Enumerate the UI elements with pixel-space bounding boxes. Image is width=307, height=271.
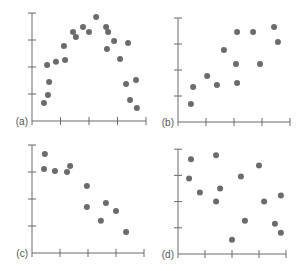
data-point <box>64 169 70 175</box>
panel-label: (b) <box>162 117 174 128</box>
data-point <box>42 151 48 157</box>
panel-label: (a) <box>16 116 28 127</box>
data-point <box>197 189 203 195</box>
data-point <box>123 229 129 235</box>
data-point <box>104 46 110 52</box>
data-point <box>188 101 194 107</box>
scatter-panel-b: (b) <box>162 18 290 128</box>
data-point <box>98 218 104 224</box>
data-point <box>105 29 111 35</box>
data-point <box>229 237 235 243</box>
data-point <box>278 230 284 236</box>
data-point <box>188 156 194 162</box>
data-point <box>272 221 278 227</box>
data-point <box>250 29 256 35</box>
data-point <box>84 204 90 210</box>
data-point <box>242 218 248 224</box>
data-point <box>93 14 99 20</box>
data-point <box>190 84 196 90</box>
data-point <box>117 56 123 62</box>
data-point <box>103 200 109 206</box>
panel-label: (c) <box>16 248 28 259</box>
data-point <box>134 105 140 111</box>
data-point <box>67 163 73 169</box>
data-point <box>204 73 210 79</box>
scatter-panel-c: (c) <box>16 145 144 259</box>
data-point <box>271 24 277 30</box>
data-point <box>127 97 133 103</box>
data-point <box>125 40 131 46</box>
data-point <box>257 61 263 67</box>
data-point <box>275 39 281 45</box>
data-point <box>73 34 79 40</box>
data-point <box>217 186 223 192</box>
data-point <box>234 80 240 86</box>
data-point <box>52 168 58 174</box>
data-point <box>278 193 284 199</box>
data-point <box>86 29 92 35</box>
panel-label: (d) <box>162 249 174 260</box>
data-point <box>80 24 86 30</box>
data-point <box>213 199 219 205</box>
data-point <box>261 199 267 205</box>
scatter-plot-grid: (a) (b) (c) (d) <box>0 0 307 271</box>
data-point <box>44 62 50 68</box>
scatter-panel-d: (d) <box>162 149 286 260</box>
data-point <box>70 29 76 35</box>
data-point <box>61 43 67 49</box>
data-point <box>113 208 119 214</box>
scatter-panel-a: (a) <box>16 13 146 127</box>
data-point <box>238 173 244 179</box>
data-point <box>84 183 90 189</box>
data-point <box>41 100 47 106</box>
data-point <box>46 79 52 85</box>
data-point <box>53 59 59 65</box>
data-point <box>123 81 129 87</box>
data-point <box>221 47 227 53</box>
data-point <box>111 38 117 44</box>
data-point <box>186 176 192 182</box>
data-point <box>214 82 220 88</box>
data-point <box>234 29 240 35</box>
data-point <box>62 57 68 63</box>
data-point <box>133 77 139 83</box>
data-point <box>45 92 51 98</box>
data-point <box>213 152 219 158</box>
data-point <box>256 162 262 168</box>
data-point <box>233 61 239 67</box>
data-point <box>41 166 47 172</box>
